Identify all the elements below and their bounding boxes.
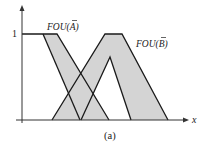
x-axis-label: x [191, 114, 197, 125]
y-axis-arrow-icon [20, 5, 25, 11]
x-axis-arrow-icon [183, 118, 189, 123]
figure-caption: (a) [104, 130, 116, 142]
y-tick-label-1: 1 [12, 28, 17, 39]
fou-b-label: FOU(B) [135, 39, 168, 50]
fou-a-label: FOU(A) [46, 22, 79, 33]
fou-diagram: 1 x FOU(A) FOU(B) (a) [0, 0, 203, 144]
